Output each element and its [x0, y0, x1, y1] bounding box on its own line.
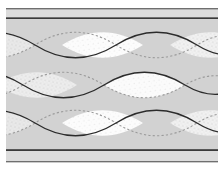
top-margin — [0, 0, 224, 8]
figure-canvas — [0, 0, 224, 174]
left-margin — [0, 0, 6, 174]
right-margin — [218, 0, 224, 174]
bottom-gap — [6, 151, 218, 161]
top-gap — [6, 10, 218, 18]
bottom-margin — [0, 163, 224, 174]
bottom-outer-rule — [6, 161, 218, 163]
bottom-inner-rule — [6, 149, 218, 151]
top-outer-rule — [6, 8, 218, 10]
wave-billow-diagram — [0, 0, 224, 174]
top-inner-rule — [6, 17, 218, 19]
